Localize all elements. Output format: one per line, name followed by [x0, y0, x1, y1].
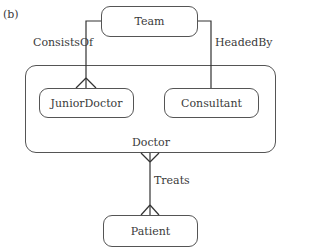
entity-junior-doctor[interactable]: JuniorDoctor [39, 88, 134, 118]
consists-of-line [86, 21, 101, 88]
entity-consultant[interactable]: Consultant [164, 88, 259, 118]
entity-team[interactable]: Team [101, 6, 198, 37]
headed-by-line [198, 21, 211, 88]
entity-patient[interactable]: Patient [103, 215, 198, 247]
relationship-consists-of-label: ConsistsOf [33, 37, 93, 49]
entity-team-label: Team [135, 15, 165, 28]
relationship-treats-label: Treats [154, 175, 190, 187]
entity-consultant-label: Consultant [181, 97, 242, 110]
entity-junior-doctor-label: JuniorDoctor [51, 97, 123, 110]
relationship-headed-by-label: HeadedBy [215, 37, 273, 49]
entity-patient-label: Patient [131, 225, 170, 238]
entity-doctor-label: Doctor [132, 137, 170, 149]
